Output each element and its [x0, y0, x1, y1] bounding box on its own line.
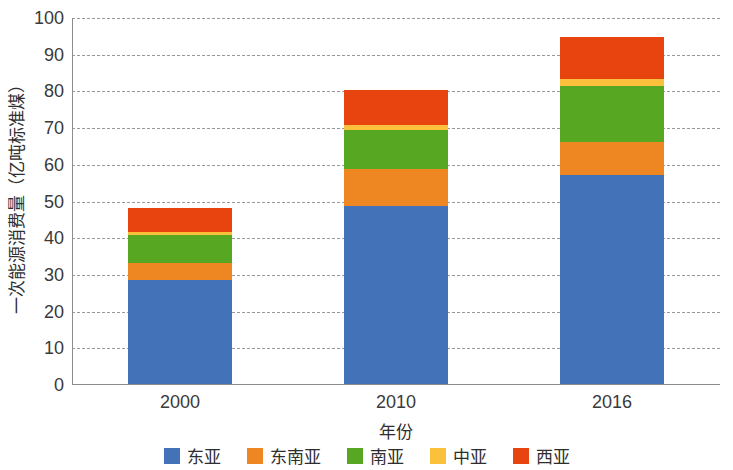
legend-item[interactable]: 中亚 [430, 443, 487, 468]
bar-stack [344, 90, 448, 384]
x-axis-line [72, 384, 720, 385]
legend: 东亚东南亚南亚中亚西亚 [0, 443, 733, 468]
legend-label: 南亚 [370, 443, 404, 468]
legend-label: 东亚 [187, 443, 221, 468]
bar-segment[interactable] [128, 235, 232, 263]
legend-item[interactable]: 东亚 [164, 443, 221, 468]
y-tick-label: 40 [4, 228, 64, 249]
bar-segment[interactable] [344, 169, 448, 206]
bar-segment[interactable] [344, 130, 448, 169]
bar-segment[interactable] [560, 37, 664, 79]
bar-segment[interactable] [128, 263, 232, 280]
x-axis-title: 年份 [72, 418, 720, 443]
bar-group[interactable] [128, 208, 232, 384]
legend-swatch-icon [513, 448, 529, 464]
bar-group[interactable] [560, 37, 664, 384]
bar-segment[interactable] [344, 90, 448, 125]
stacked-bar-chart: 一次能源消费量（亿吨标准煤） 0102030405060708090100 20… [0, 0, 733, 470]
y-tick-label: 60 [4, 154, 64, 175]
legend-swatch-icon [164, 448, 180, 464]
legend-label: 东南亚 [270, 443, 321, 468]
bar-segment[interactable] [560, 79, 664, 86]
y-tick-label: 30 [4, 264, 64, 285]
y-tick-label: 80 [4, 81, 64, 102]
x-tick-label: 2010 [326, 392, 466, 413]
x-tick-label: 2000 [110, 392, 250, 413]
y-tick-label: 20 [4, 301, 64, 322]
legend-item[interactable]: 南亚 [347, 443, 404, 468]
legend-label: 中亚 [453, 443, 487, 468]
y-tick-label: 50 [4, 191, 64, 212]
y-tick-label: 70 [4, 118, 64, 139]
legend-item[interactable]: 东南亚 [247, 443, 321, 468]
legend-swatch-icon [347, 448, 363, 464]
y-tick-label: 0 [4, 375, 64, 396]
bar-segment[interactable] [128, 208, 232, 232]
plot-area [72, 18, 720, 385]
bar-segment[interactable] [128, 280, 232, 384]
bar-stack [128, 208, 232, 384]
legend-swatch-icon [247, 448, 263, 464]
bar-segment[interactable] [560, 86, 664, 142]
legend-item[interactable]: 西亚 [513, 443, 570, 468]
bar-segment[interactable] [344, 206, 448, 384]
bar-segment[interactable] [560, 142, 664, 175]
y-axis-line [72, 18, 73, 385]
gridline [72, 18, 720, 19]
y-tick-label: 10 [4, 338, 64, 359]
bar-group[interactable] [344, 90, 448, 384]
legend-label: 西亚 [536, 443, 570, 468]
y-tick-label: 100 [4, 8, 64, 29]
legend-swatch-icon [430, 448, 446, 464]
bar-stack [560, 37, 664, 384]
y-axis-tick-labels: 0102030405060708090100 [0, 18, 64, 385]
y-tick-label: 90 [4, 44, 64, 65]
bar-segment[interactable] [560, 175, 664, 384]
x-tick-label: 2016 [542, 392, 682, 413]
